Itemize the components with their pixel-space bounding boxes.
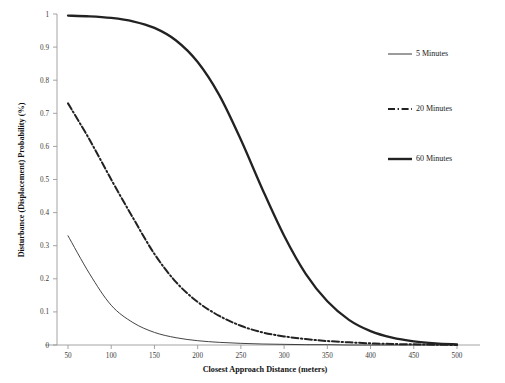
y-tick-label: 0.1 [40,308,49,316]
x-tick-label: 500 [452,352,463,360]
series-line-20-minutes [68,103,457,345]
legend-item-60-minutes[interactable]: 60 Minutes [388,154,452,163]
x-tick-label: 250 [235,352,246,360]
y-tick-label: 0.7 [40,110,49,118]
legend-label: 60 Minutes [416,154,452,163]
chart-container: 00.10.20.30.40.50.60.70.80.91 5010015020… [0,0,505,383]
legend-item-5-minutes[interactable]: 5 Minutes [388,49,448,58]
y-tick-label: 0.5 [40,176,49,184]
y-tick-label: 0.3 [40,242,49,250]
y-tick-label: 0.4 [40,209,49,217]
x-tick-label: 200 [192,352,203,360]
legend-label: 5 Minutes [416,49,448,58]
x-tick-label: 100 [106,352,117,360]
series-line-5-minutes [68,236,457,345]
y-tick-label: 0.6 [40,143,49,151]
chart-legend: 5 Minutes20 Minutes60 Minutes [388,49,452,163]
x-tick-label: 150 [149,352,160,360]
series-line-60-minutes [68,16,457,345]
x-tick-label: 350 [322,352,333,360]
y-tick-label: 1 [45,11,49,19]
x-tick-label: 50 [64,352,72,360]
y-tick-label: 0.8 [40,77,49,85]
line-chart-plot: 00.10.20.30.40.50.60.70.80.91 5010015020… [0,0,505,383]
x-tick-group: 50100150200250300350400450500 [64,345,462,360]
x-tick-label: 300 [279,352,290,360]
y-axis-title: Disturbance (Displacement) Probability (… [17,102,26,257]
legend-label: 20 Minutes [416,104,452,113]
y-tick-label: 0 [45,342,49,350]
series-group [68,16,457,345]
y-tick-label: 0.9 [40,44,49,52]
x-tick-label: 450 [408,352,419,360]
y-tick-label: 0.2 [40,275,49,283]
y-tick-group: 00.10.20.30.40.50.60.70.80.91 [40,11,57,350]
x-axis-title: Closest Approach Distance (meters) [203,365,328,374]
x-tick-label: 400 [365,352,376,360]
legend-item-20-minutes[interactable]: 20 Minutes [388,104,452,113]
